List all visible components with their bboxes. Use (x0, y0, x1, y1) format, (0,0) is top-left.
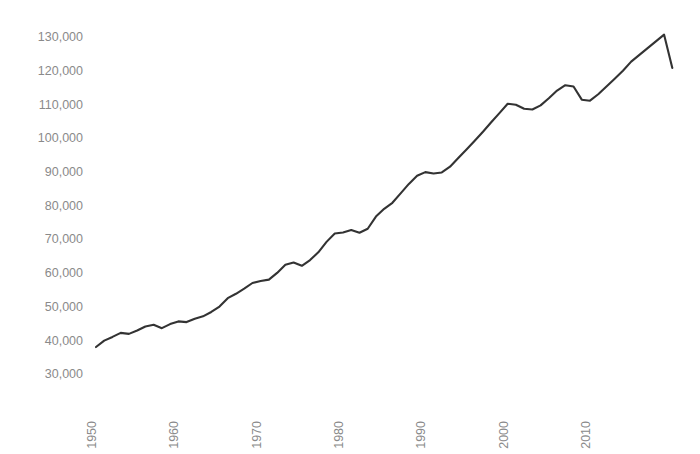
y-axis-tick-labels: 130,000120,000110,000100,00090,00080,000… (38, 30, 83, 381)
y-tick-label: 120,000 (38, 64, 83, 78)
chart-container: 130,000120,000110,000100,00090,00080,000… (0, 0, 700, 454)
y-tick-label: 60,000 (45, 266, 83, 280)
y-tick-label: 100,000 (38, 131, 83, 145)
x-tick-label: 1950 (85, 421, 99, 449)
y-tick-label: 130,000 (38, 30, 83, 44)
y-tick-label: 40,000 (45, 334, 83, 348)
employment-line-series (96, 35, 672, 347)
x-tick-label: 2000 (497, 421, 511, 449)
line-chart: 130,000120,000110,000100,00090,00080,000… (0, 0, 700, 454)
x-tick-label: 2010 (579, 421, 593, 449)
y-tick-label: 70,000 (45, 232, 83, 246)
x-axis-tick-labels: 1950196019701980199020002010 (85, 421, 593, 449)
y-tick-label: 30,000 (45, 367, 83, 381)
x-tick-label: 1970 (250, 421, 264, 449)
x-tick-label: 1980 (332, 421, 346, 449)
x-tick-label: 1960 (167, 421, 181, 449)
y-tick-label: 50,000 (45, 300, 83, 314)
y-tick-label: 110,000 (39, 98, 83, 112)
y-tick-label: 80,000 (45, 199, 83, 213)
y-tick-label: 90,000 (45, 165, 83, 179)
x-tick-label: 1990 (414, 421, 428, 449)
